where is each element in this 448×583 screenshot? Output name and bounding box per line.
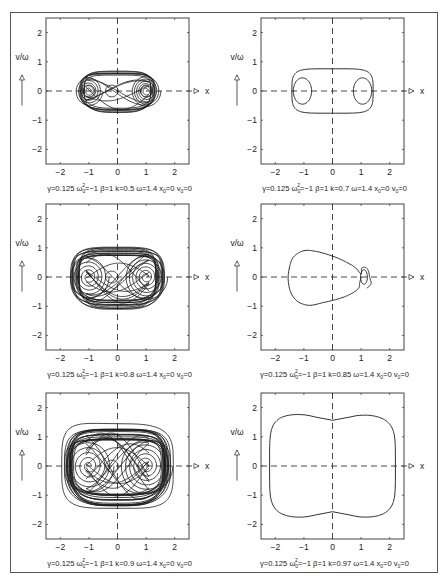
x-axis-label: x bbox=[205, 86, 210, 96]
x-tick-label: 0 bbox=[115, 353, 120, 363]
y-tick-label: 2 bbox=[37, 214, 42, 224]
x-tick-label: −1 bbox=[84, 353, 94, 363]
panel-k07: −2−1012210−1−2xv/ωγ=0.125 ω02=−1 β=1 k=0… bbox=[230, 18, 425, 194]
y-tick-label: 1 bbox=[252, 432, 257, 442]
y-axis-label: v/ω bbox=[230, 238, 244, 248]
x-tick-label: −1 bbox=[84, 542, 94, 552]
panel-k08: −2−1012210−1−2xv/ωγ=0.125 ω02=−1 β=1 k=0… bbox=[15, 204, 210, 380]
panel-caption: γ=0.125 ω02=−1 β=1 k=0.85 ω=1.4 x0=0 v0=… bbox=[260, 368, 409, 380]
panel-k085: −2−1012210−1−2xv/ωγ=0.125 ω02=−1 β=1 k=0… bbox=[230, 204, 425, 380]
y-tick-label: 2 bbox=[37, 28, 42, 38]
y-tick-label: 1 bbox=[37, 432, 42, 442]
x-tick-label: 2 bbox=[172, 167, 177, 177]
y-tick-label: −1 bbox=[247, 301, 257, 311]
panel-caption: γ=0.125 ω02=−1 β=1 k=0.7 ω=1.4 x0=0 v0=0 bbox=[262, 182, 407, 194]
y-tick-label: 2 bbox=[252, 214, 257, 224]
y-tick-label: 2 bbox=[252, 403, 257, 413]
x-tick-label: 1 bbox=[359, 542, 364, 552]
x-tick-label: −2 bbox=[55, 542, 65, 552]
figure: −2−1012210−1−2xv/ωγ=0.125 ω02=−1 β=1 k=0… bbox=[0, 0, 448, 583]
y-tick-label: 1 bbox=[37, 243, 42, 253]
y-axis-label: v/ω bbox=[230, 427, 244, 437]
y-tick-label: −1 bbox=[247, 115, 257, 125]
y-axis-label: v/ω bbox=[230, 52, 244, 62]
y-tick-label: 0 bbox=[37, 461, 42, 471]
x-axis-label: x bbox=[420, 272, 425, 282]
y-tick-label: 0 bbox=[37, 86, 42, 96]
x-axis-label: x bbox=[420, 461, 425, 471]
x-tick-label: 0 bbox=[330, 542, 335, 552]
panel-caption: γ=0.125 ω02=−1 β=1 k=0.5 ω=1.4 x0=0 v0=0 bbox=[47, 182, 192, 194]
x-tick-label: −2 bbox=[55, 167, 65, 177]
x-tick-label: 2 bbox=[387, 167, 392, 177]
panel-k097: −2−1012210−1−2xv/ωγ=0.125 ω02=−1 β=1 k=0… bbox=[230, 393, 425, 569]
y-axis-label: v/ω bbox=[15, 427, 29, 437]
y-axis-label: v/ω bbox=[15, 52, 29, 62]
x-tick-label: 2 bbox=[387, 542, 392, 552]
y-tick-label: −2 bbox=[32, 330, 42, 340]
y-tick-label: −1 bbox=[32, 301, 42, 311]
y-tick-label: 1 bbox=[252, 243, 257, 253]
x-tick-label: 1 bbox=[144, 167, 149, 177]
x-tick-label: −2 bbox=[270, 353, 280, 363]
x-tick-label: −1 bbox=[299, 167, 309, 177]
x-tick-label: 0 bbox=[330, 167, 335, 177]
y-tick-label: 1 bbox=[252, 57, 257, 67]
x-tick-label: −2 bbox=[270, 167, 280, 177]
y-tick-label: −2 bbox=[247, 330, 257, 340]
x-tick-label: 1 bbox=[144, 542, 149, 552]
x-tick-label: 0 bbox=[115, 167, 120, 177]
x-tick-label: −2 bbox=[270, 542, 280, 552]
x-tick-label: 1 bbox=[359, 353, 364, 363]
y-tick-label: 0 bbox=[37, 272, 42, 282]
y-tick-label: 1 bbox=[37, 57, 42, 67]
x-tick-label: 2 bbox=[387, 353, 392, 363]
x-tick-label: 1 bbox=[359, 167, 364, 177]
x-tick-label: 2 bbox=[172, 542, 177, 552]
y-tick-label: 0 bbox=[252, 86, 257, 96]
x-tick-label: 2 bbox=[172, 353, 177, 363]
x-tick-label: −1 bbox=[299, 542, 309, 552]
y-tick-label: −2 bbox=[32, 519, 42, 529]
x-axis-label: x bbox=[205, 461, 210, 471]
panel-caption: γ=0.125 ω02=−1 β=1 k=0.8 ω=1.4 x0=0 v0=0 bbox=[47, 368, 192, 380]
x-axis-label: x bbox=[205, 272, 210, 282]
y-tick-label: −2 bbox=[32, 144, 42, 154]
y-tick-label: −1 bbox=[247, 490, 257, 500]
x-tick-label: −1 bbox=[84, 167, 94, 177]
x-tick-label: 1 bbox=[144, 353, 149, 363]
y-tick-label: −1 bbox=[32, 115, 42, 125]
panel-caption: γ=0.125 ω02=−1 β=1 k=0.9 ω=1.4 x0=0 v0=0 bbox=[47, 557, 192, 569]
y-tick-label: −2 bbox=[247, 519, 257, 529]
x-tick-label: 0 bbox=[330, 353, 335, 363]
panel-caption: γ=0.125 ω02=−1 β=1 k=0.97 ω=1.4 x0=0 v0=… bbox=[260, 557, 409, 569]
y-tick-label: 0 bbox=[252, 272, 257, 282]
x-axis-label: x bbox=[420, 86, 425, 96]
y-tick-label: 2 bbox=[37, 403, 42, 413]
y-tick-label: −2 bbox=[247, 144, 257, 154]
y-tick-label: −1 bbox=[32, 490, 42, 500]
y-tick-label: 2 bbox=[252, 28, 257, 38]
panel-k05: −2−1012210−1−2xv/ωγ=0.125 ω02=−1 β=1 k=0… bbox=[15, 18, 210, 194]
panel-k09: −2−1012210−1−2xv/ωγ=0.125 ω02=−1 β=1 k=0… bbox=[15, 393, 210, 569]
x-tick-label: 0 bbox=[115, 542, 120, 552]
y-axis-label: v/ω bbox=[15, 238, 29, 248]
x-tick-label: −2 bbox=[55, 353, 65, 363]
y-tick-label: 0 bbox=[252, 461, 257, 471]
x-tick-label: −1 bbox=[299, 353, 309, 363]
